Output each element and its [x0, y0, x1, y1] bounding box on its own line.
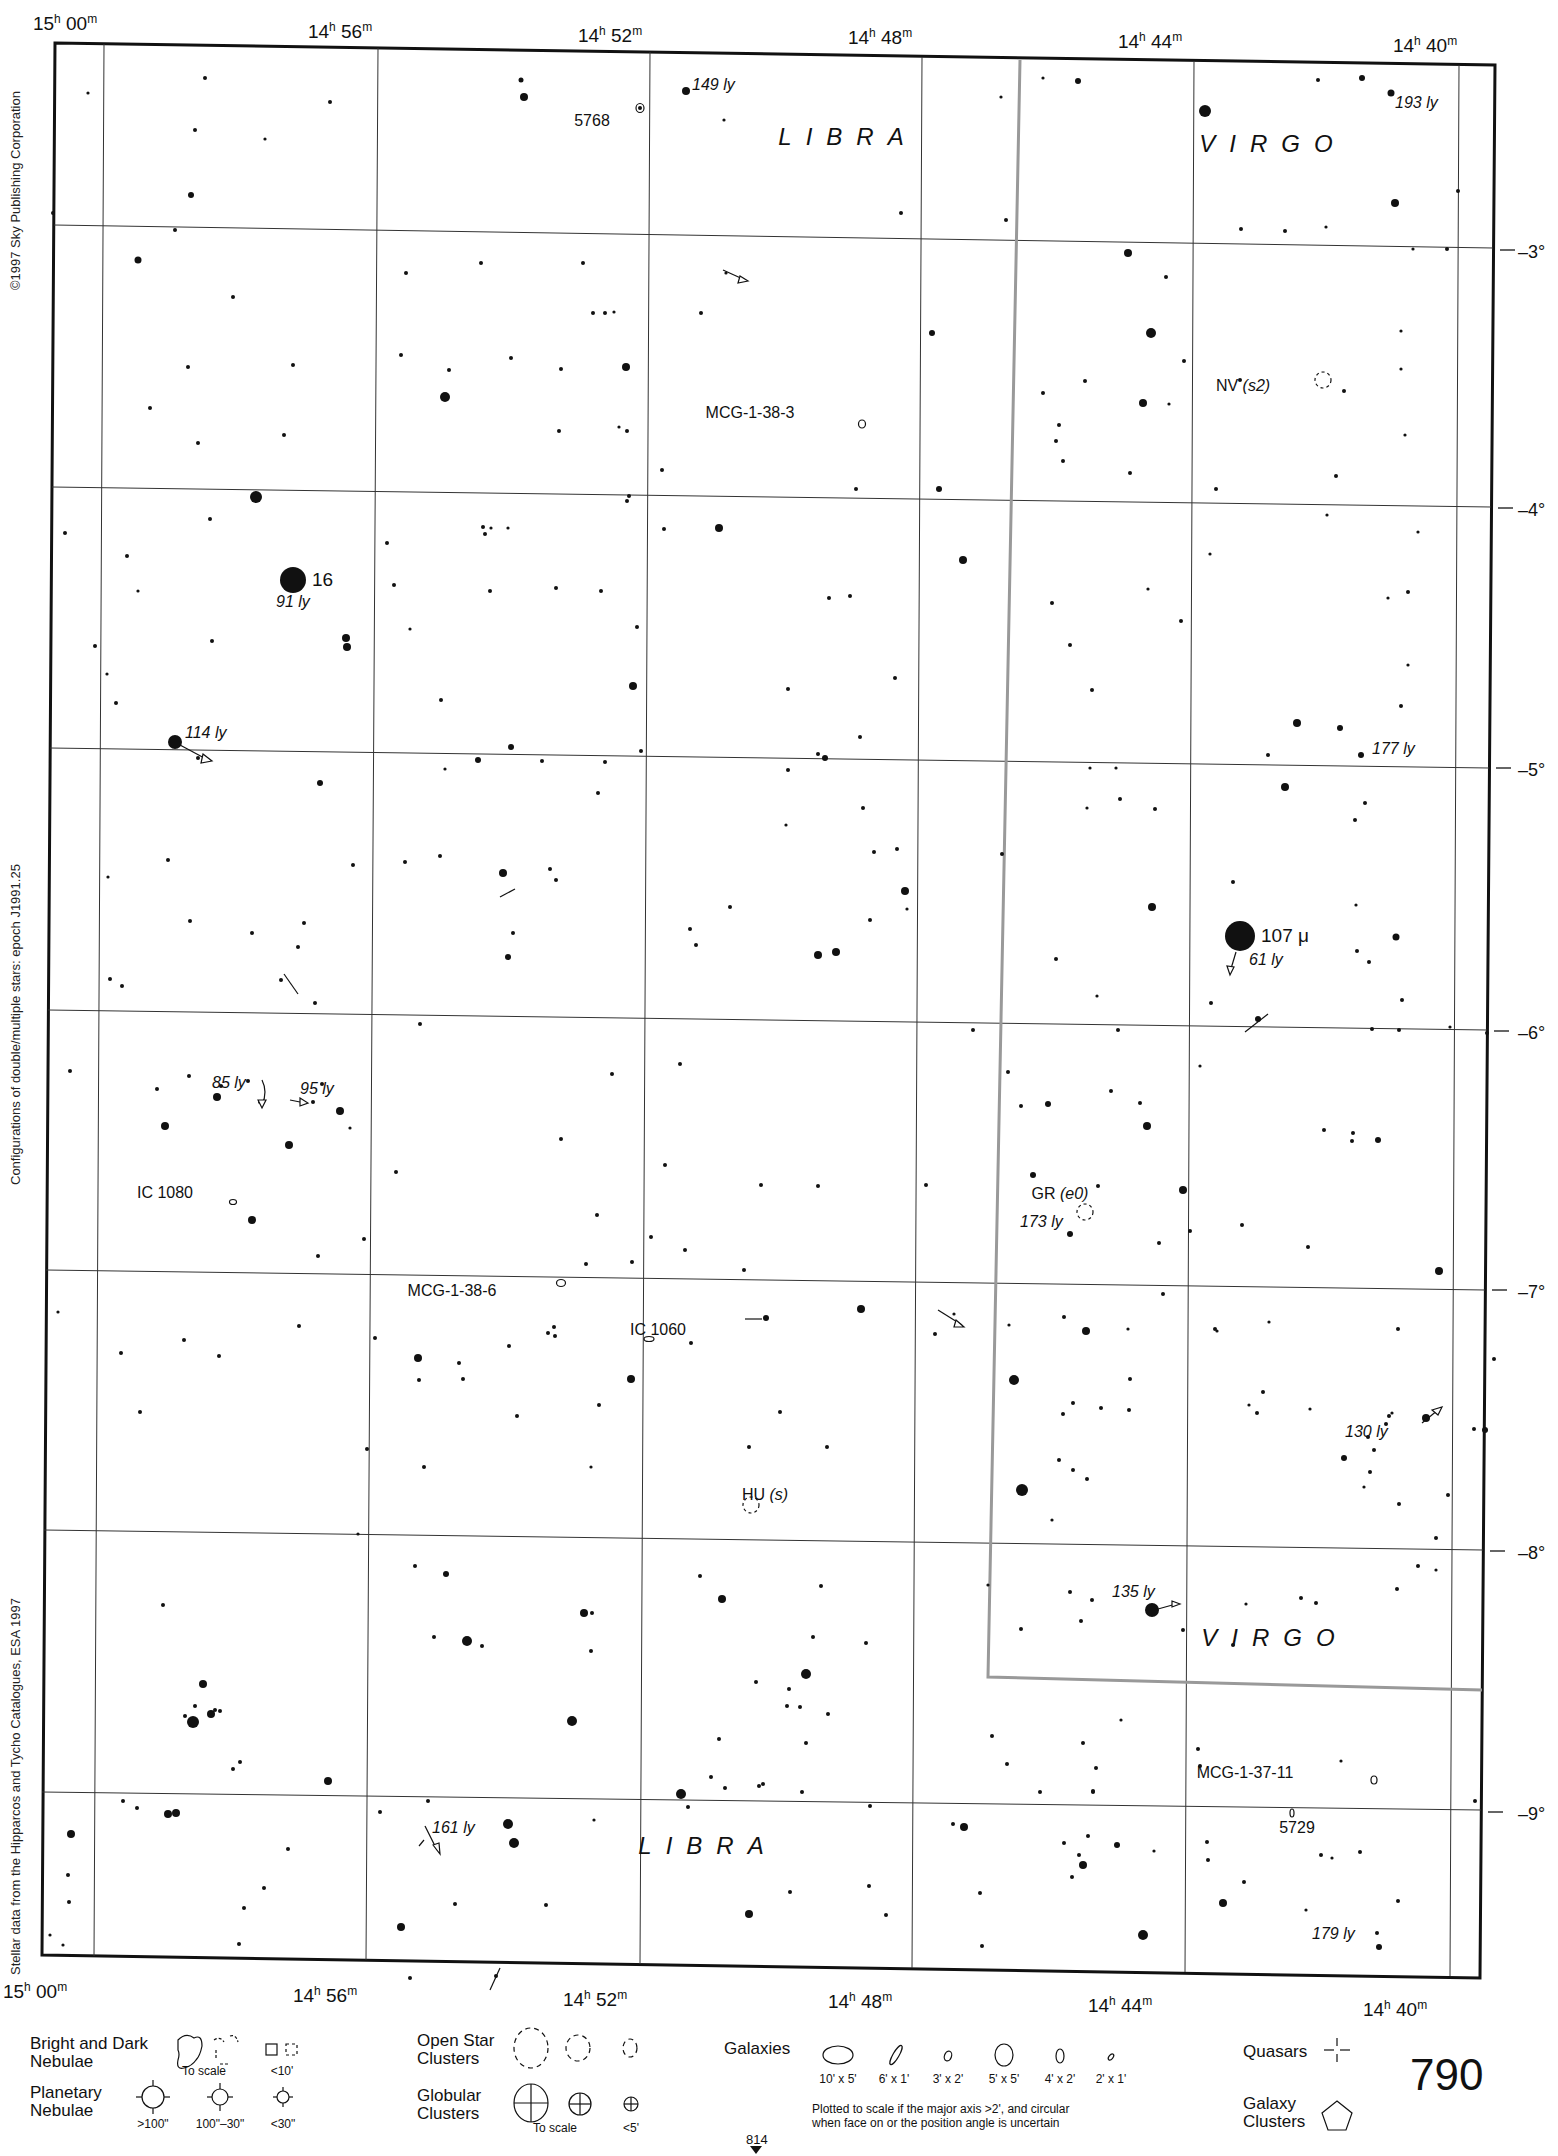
chevron-down-icon[interactable] [750, 2146, 762, 2154]
star [868, 1804, 872, 1808]
star [610, 1072, 614, 1076]
star [857, 1305, 865, 1313]
distance-label: 161 ly [432, 1819, 476, 1836]
star [1351, 1131, 1355, 1135]
ra-grid [94, 44, 1459, 1976]
star [509, 1838, 519, 1848]
star [1085, 806, 1088, 809]
legend-globular-small: <5' [623, 2121, 639, 2135]
star [1396, 1327, 1400, 1331]
star [286, 1847, 290, 1851]
distance-label: 149 ly [692, 76, 736, 93]
star [1416, 530, 1419, 533]
star [723, 1786, 727, 1790]
star [505, 954, 511, 960]
star [1153, 807, 1157, 811]
star [237, 1942, 241, 1946]
star [343, 643, 351, 651]
deep-sky-label: IC 1080 [137, 1184, 193, 1201]
star [296, 945, 300, 949]
star [1375, 1137, 1381, 1143]
star [397, 1923, 405, 1931]
star [408, 627, 411, 630]
star [119, 1351, 123, 1355]
star [1324, 225, 1327, 228]
star [480, 1644, 484, 1648]
star [617, 425, 620, 428]
star [67, 1830, 75, 1838]
star [848, 594, 852, 598]
star [1091, 1789, 1095, 1793]
star [548, 867, 552, 871]
star [884, 1913, 888, 1917]
star [394, 1170, 398, 1174]
dec-label: –4° [1518, 500, 1545, 520]
star [418, 1022, 422, 1026]
star [1188, 1229, 1192, 1233]
star [699, 311, 703, 315]
legend-galaxy-size: 2' x 1' [1096, 2072, 1127, 2086]
star [51, 211, 55, 215]
distance-label: 193 ly [1395, 94, 1439, 111]
star [933, 1332, 937, 1336]
page-number: 790 [1410, 2050, 1483, 2100]
star [1231, 880, 1235, 884]
star [489, 526, 492, 529]
star [56, 1310, 59, 1313]
star [905, 907, 908, 910]
constellation-boundary [988, 60, 1482, 1690]
ra-label-top: 15h 00m [33, 12, 97, 34]
star [121, 1799, 125, 1803]
star [313, 1001, 317, 1005]
star [554, 878, 558, 882]
star [328, 100, 332, 104]
star [1209, 1001, 1213, 1005]
star [1314, 1601, 1318, 1605]
star [1061, 459, 1065, 463]
star [207, 1710, 215, 1718]
star [1281, 783, 1289, 791]
legend-galaxy-size: 4' x 2' [1045, 2072, 1076, 2086]
star [1299, 1596, 1303, 1600]
star [1367, 960, 1371, 964]
star [186, 365, 190, 369]
star [559, 367, 563, 371]
star [246, 1079, 250, 1083]
star [1127, 1408, 1131, 1412]
dec-label: –5° [1518, 760, 1545, 780]
ra-label-bottom: 14h 40m [1363, 1998, 1427, 2020]
star [864, 1641, 868, 1645]
star [385, 541, 389, 545]
star [250, 931, 254, 935]
star [238, 1760, 242, 1764]
legend-globular-title: Globular [417, 2086, 482, 2105]
star [715, 524, 723, 532]
star [1161, 1292, 1165, 1296]
star [1304, 1908, 1307, 1911]
ra-label-bottom: 14h 48m [828, 1990, 892, 2012]
star [1387, 1414, 1391, 1418]
star [1376, 1944, 1382, 1950]
dec-label: –7° [1518, 1282, 1545, 1302]
named-star [280, 567, 306, 593]
adjacent-page-link[interactable]: 814 [746, 2132, 768, 2147]
star [1214, 487, 1218, 491]
star [188, 919, 192, 923]
star [800, 1790, 804, 1794]
star [1071, 1468, 1075, 1472]
star [172, 1809, 180, 1817]
star [1096, 1184, 1100, 1188]
star [786, 687, 790, 691]
star [279, 978, 283, 982]
star [1050, 601, 1054, 605]
star [378, 1810, 382, 1814]
ra-label-top: 14h 56m [308, 20, 372, 42]
star [682, 87, 690, 95]
star [1118, 797, 1122, 801]
star [1406, 663, 1409, 666]
legend-text: Bright and DarkNebulaeTo scale<10'Planet… [30, 2031, 1307, 2135]
star [311, 1100, 315, 1104]
star [709, 1775, 713, 1779]
star [1403, 433, 1406, 436]
star [193, 1704, 197, 1708]
